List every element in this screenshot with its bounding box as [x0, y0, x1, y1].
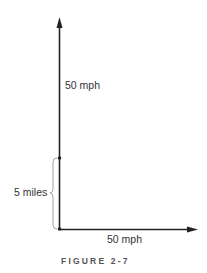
- point-marker: [58, 156, 62, 160]
- distance-brace-icon: [50, 158, 57, 229]
- figure-caption: FIGURE 2-7: [61, 256, 130, 266]
- origin-marker: [58, 227, 62, 231]
- horizontal-vector-label: 50 mph: [107, 233, 142, 245]
- vector-diagram: [0, 0, 207, 273]
- horizontal-arrowhead-icon: [187, 227, 198, 233]
- vertical-arrowhead-icon: [57, 17, 63, 28]
- distance-label: 5 miles: [14, 186, 47, 198]
- vertical-vector-label: 50 mph: [65, 79, 100, 91]
